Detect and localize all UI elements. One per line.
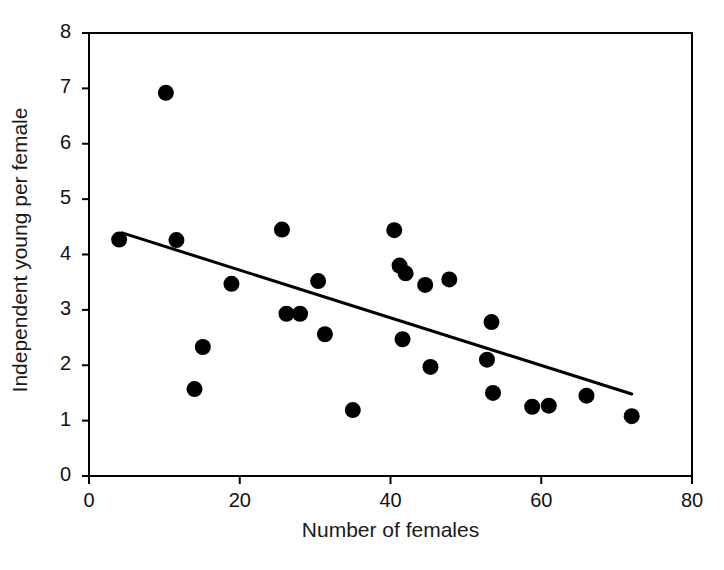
data-point — [310, 273, 326, 289]
data-point — [624, 408, 640, 424]
data-point — [422, 359, 438, 375]
x-tick-label: 0 — [69, 489, 109, 512]
data-point — [485, 385, 501, 401]
data-point — [398, 265, 414, 281]
y-tick-label: 5 — [41, 186, 71, 209]
data-point — [187, 381, 203, 397]
x-tick-label: 20 — [220, 489, 260, 512]
y-tick-label: 4 — [41, 242, 71, 265]
y-tick-label: 0 — [41, 463, 71, 486]
data-point — [195, 339, 211, 355]
data-point — [317, 326, 333, 342]
axes-frame-path — [89, 33, 692, 476]
data-point — [111, 232, 127, 248]
data-point — [386, 222, 402, 238]
data-point — [223, 276, 239, 292]
data-point — [524, 399, 540, 415]
y-axis-ticks — [82, 33, 89, 476]
axes-frame — [89, 33, 692, 476]
y-tick-label: 6 — [41, 131, 71, 154]
data-point — [345, 402, 361, 418]
data-point — [395, 331, 411, 347]
y-tick-label: 8 — [41, 20, 71, 43]
trend-line — [122, 233, 632, 394]
data-point — [274, 222, 290, 238]
x-tick-label: 40 — [371, 489, 411, 512]
y-tick-label: 1 — [41, 408, 71, 431]
data-point — [417, 277, 433, 293]
y-tick-label: 3 — [41, 297, 71, 320]
data-point — [484, 314, 500, 330]
data-point — [541, 398, 557, 414]
x-tick-label: 60 — [521, 489, 561, 512]
data-point — [578, 388, 594, 404]
data-point — [441, 271, 457, 287]
data-point — [292, 306, 308, 322]
data-point — [479, 352, 495, 368]
y-tick-label: 7 — [41, 75, 71, 98]
data-point — [168, 232, 184, 248]
plot-canvas — [0, 0, 724, 570]
x-tick-label: 80 — [672, 489, 712, 512]
x-axis-ticks — [89, 476, 692, 484]
data-point — [158, 85, 174, 101]
y-tick-label: 2 — [41, 352, 71, 375]
trend-line-segment — [122, 233, 632, 394]
scatter-plot-figure: Independent young per female Number of f… — [0, 0, 724, 570]
